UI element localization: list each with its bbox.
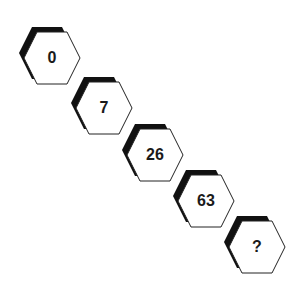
hexagon-sequence-puzzle: 0 7 26 63 ? [0,0,300,286]
hexagon-3-value: 26 [127,145,183,165]
hexagon-1-value: 0 [24,48,80,68]
hexagon-4-value: 63 [178,191,234,211]
hexagon-5-unknown-value: ? [229,237,285,257]
hexagon-2-value: 7 [76,98,132,118]
